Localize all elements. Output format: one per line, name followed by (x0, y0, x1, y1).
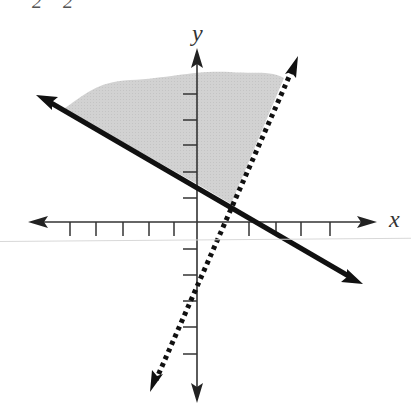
x-axis (28, 216, 377, 236)
dashed-line-arrow-up-icon (285, 56, 298, 78)
inequality-graph (0, 0, 411, 409)
shaded-region (62, 72, 284, 204)
x-axis-label: x (389, 206, 400, 233)
y-axis-label: y (192, 20, 203, 47)
